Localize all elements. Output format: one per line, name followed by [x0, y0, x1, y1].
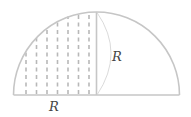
semicircle-diagram: R R: [0, 0, 191, 117]
radius-label-vertical: R: [111, 49, 122, 64]
thin-arc: [97, 13, 111, 96]
hatch-lines: [26, 12, 89, 94]
radius-label-horizontal: R: [48, 99, 59, 114]
